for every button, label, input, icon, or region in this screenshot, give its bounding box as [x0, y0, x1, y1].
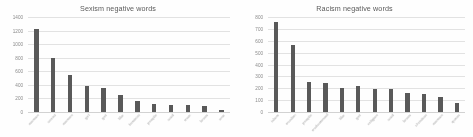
chart-title: Sexism negative words	[0, 4, 236, 13]
bar	[51, 58, 56, 112]
x-tick-label: know	[198, 113, 208, 124]
x-label-cell: one	[213, 112, 230, 137]
bar-item	[78, 17, 95, 112]
sexism-negative-words-chart: Sexism negative words 020040060080010001…	[0, 0, 236, 137]
bar-item	[179, 17, 196, 112]
x-label-cell: people	[146, 112, 163, 137]
x-label-cell: women	[62, 112, 79, 137]
x-label-cell: muslim	[284, 112, 300, 137]
bar-item	[350, 17, 366, 112]
x-tick-label: said	[386, 113, 395, 122]
bar	[68, 75, 73, 112]
bar-item	[146, 17, 163, 112]
bar-item	[367, 17, 383, 112]
y-tick-label: 1200	[13, 28, 23, 33]
bar	[118, 95, 123, 112]
bar	[405, 93, 409, 112]
chart-pair-container: Sexism negative words 020040060080010001…	[0, 0, 473, 137]
x-label-cell: get	[350, 112, 366, 137]
x-label-cell: islam	[268, 112, 284, 137]
bar	[438, 97, 442, 112]
y-tick-label: 600	[255, 38, 263, 43]
x-label-cell: said	[383, 112, 399, 137]
bar	[169, 105, 174, 112]
x-tick-label: man	[182, 113, 191, 123]
x-tick-label: feminist	[128, 113, 142, 127]
bar-item	[129, 17, 146, 112]
y-tick-label: 100	[255, 98, 263, 103]
bar	[389, 89, 393, 112]
bar-item	[432, 17, 448, 112]
x-label-cell: mohammed	[317, 112, 333, 137]
bar	[186, 105, 191, 112]
y-tick-label: 400	[15, 82, 23, 87]
x-tick-label: people	[146, 113, 158, 126]
bar	[85, 86, 90, 112]
x-label-cell: get	[95, 112, 112, 137]
x-label-cell: feminist	[129, 112, 146, 137]
y-tick-label: 300	[255, 74, 263, 79]
bar-item	[268, 17, 284, 112]
y-tick-label: 200	[15, 96, 23, 101]
x-tick-label: sexist	[46, 113, 57, 124]
x-tick-label: like	[116, 113, 124, 121]
bar	[34, 29, 39, 112]
x-tick-label: said	[166, 113, 175, 122]
y-tick-label: 0	[260, 110, 263, 115]
y-tick-label: 200	[255, 86, 263, 91]
x-tick-label: get	[354, 113, 362, 121]
y-axis-ticks: 0200400600800100012001400	[0, 17, 26, 112]
x-label-cell: like	[112, 112, 129, 137]
bar-item	[317, 17, 333, 112]
x-tick-label: get	[100, 113, 108, 121]
x-label-cell: woman	[432, 112, 448, 137]
x-axis-labels: womansexistwomengirlgetlikefeministpeopl…	[28, 112, 230, 137]
x-axis-labels: islammuslimpeoplemohammedlikegetreligion…	[268, 112, 465, 137]
y-tick-label: 500	[255, 50, 263, 55]
bar-series	[28, 17, 230, 112]
chart-title: Racism negative words	[236, 4, 473, 13]
x-tick-label: religion	[366, 113, 379, 127]
bar	[455, 103, 459, 112]
bar-item	[213, 17, 230, 112]
bar-item	[62, 17, 79, 112]
x-label-cell: christian	[416, 112, 432, 137]
x-tick-label: islam	[270, 113, 280, 124]
bar-item	[28, 17, 45, 112]
x-tick-label: muslim	[284, 113, 297, 126]
x-tick-label: woman	[431, 113, 444, 127]
x-tick-label: quran	[450, 113, 461, 124]
x-tick-label: like	[338, 113, 346, 121]
bar-item	[399, 17, 415, 112]
bar-item	[383, 17, 399, 112]
x-tick-label: people	[301, 113, 313, 126]
bar	[101, 88, 106, 112]
bar	[323, 83, 327, 112]
bar-item	[449, 17, 465, 112]
y-tick-label: 700	[255, 26, 263, 31]
x-label-cell: woman	[28, 112, 45, 137]
bar	[307, 82, 311, 112]
bar-item	[334, 17, 350, 112]
bar-item	[163, 17, 180, 112]
plot-area	[268, 17, 465, 112]
y-tick-label: 800	[255, 15, 263, 20]
bar	[152, 104, 157, 112]
bar	[373, 89, 377, 112]
x-tick-label: one	[217, 113, 226, 122]
x-label-cell: religion	[367, 112, 383, 137]
bar	[274, 22, 278, 112]
bar-item	[45, 17, 62, 112]
y-tick-label: 600	[15, 69, 23, 74]
plot-area	[28, 17, 230, 112]
y-tick-label: 400	[255, 62, 263, 67]
bar-item	[301, 17, 317, 112]
x-tick-label: know	[401, 113, 411, 124]
x-tick-label: women	[61, 113, 74, 127]
y-axis-ticks: 0100200300400500600700800	[236, 17, 266, 112]
x-label-cell: said	[163, 112, 180, 137]
bar	[135, 101, 140, 112]
bar-item	[95, 17, 112, 112]
bar-series	[268, 17, 465, 112]
bar-item	[284, 17, 300, 112]
